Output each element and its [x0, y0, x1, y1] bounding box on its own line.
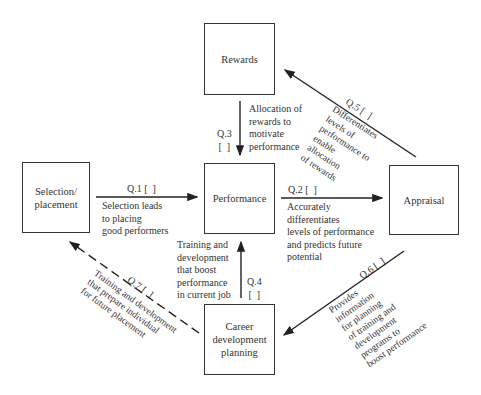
- q4-tag: Q.4 [ ]: [247, 276, 262, 301]
- node-career: Career development planning: [204, 304, 275, 375]
- q3-text: Allocation of rewards to motivate perfor…: [249, 103, 302, 153]
- q2-text: Accurately differentiates levels of perf…: [287, 201, 374, 264]
- q3-tag: Q.3 [ ]: [217, 128, 232, 153]
- q1-text: Selection leads to placing good performe…: [102, 200, 168, 238]
- q4-text: Training and development that boost perf…: [177, 239, 231, 302]
- q2-tag: Q.2 [ ]: [288, 184, 317, 197]
- node-appraisal: Appraisal: [389, 165, 459, 235]
- q1-tag: Q.1 [ ]: [127, 183, 156, 196]
- node-performance: Performance: [204, 163, 275, 234]
- node-rewards: Rewards: [204, 23, 275, 95]
- node-selection: Selection/ placement: [22, 162, 90, 233]
